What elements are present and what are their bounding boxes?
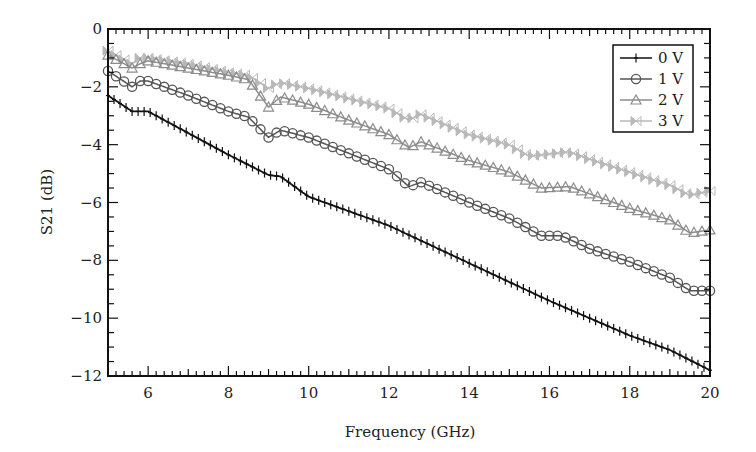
y-tick-label: −8 [80,251,102,269]
x-tick-label: 16 [540,384,559,402]
y-tick-label: −12 [70,367,102,385]
y-tick-label: 0 [92,20,102,38]
x-tick-label: 18 [620,384,639,402]
y-tick-label: −4 [80,136,102,154]
x-tick-label: 6 [143,384,153,402]
y-tick-label: −2 [80,78,102,96]
x-axis-label: Frequency (GHz) [345,423,476,441]
x-tick-label: 20 [700,384,719,402]
y-axis-label: S21 (dB) [38,169,56,235]
x-tick-label: 12 [379,384,398,402]
x-tick-label: 10 [299,384,318,402]
legend-label: 1 V [658,70,684,88]
x-tick-label: 14 [460,384,479,402]
legend-label: 0 V [658,49,684,67]
legend-label: 2 V [658,91,684,109]
legend: 0 V1 V2 V3 V [613,45,693,132]
series-0v [106,91,712,375]
legend-label: 3 V [658,112,684,130]
y-tick-label: −6 [80,194,102,212]
s21-frequency-chart: 681012141618200−2−4−6−8−10−12 Frequency … [0,0,756,452]
y-tick-label: −10 [70,309,102,327]
x-tick-label: 8 [224,384,234,402]
